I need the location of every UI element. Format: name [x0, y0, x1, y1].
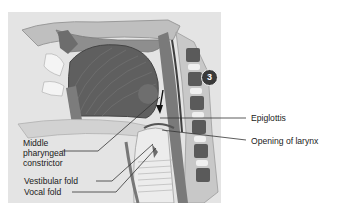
label-vocal-fold: Vocal fold — [24, 187, 61, 197]
label-line-1: Middle — [23, 138, 66, 148]
label-epiglottis: Epiglottis — [251, 113, 286, 123]
label-vestibular-fold: Vestibular fold — [24, 176, 78, 186]
label-middle-pharyngeal-constrictor: Middle pharyngeal constrictor — [23, 138, 66, 168]
label-line-2: pharyngeal — [23, 148, 66, 158]
label-opening-of-larynx: Opening of larynx — [251, 136, 318, 146]
label-line-3: constrictor — [23, 158, 66, 168]
